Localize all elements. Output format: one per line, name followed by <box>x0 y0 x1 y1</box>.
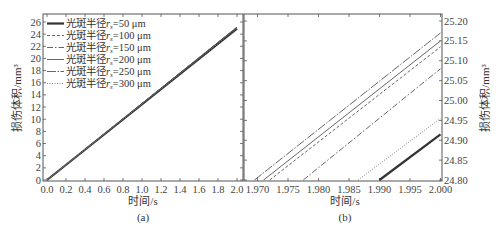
x-tick-label: 1.980 <box>307 184 331 195</box>
x-tick-label: 1.990 <box>368 184 392 195</box>
series-line <box>270 47 441 180</box>
y-tick-label: 22 <box>31 41 42 52</box>
x-tick-label: 2.000 <box>429 184 453 195</box>
x-tick-label: 1.0 <box>135 184 148 195</box>
y-tick-label: 10 <box>31 114 42 125</box>
x-tick-label: 1.8 <box>211 184 224 195</box>
panel-a: 02468101214161820222426 0.00.20.40.60.81… <box>10 14 244 224</box>
panel-b-x-ticks: 1.9701.9751.9801.9851.9901.9952.000 <box>246 14 453 195</box>
x-tick-label: 0.6 <box>97 184 110 195</box>
x-tick-label: 0.4 <box>78 184 92 195</box>
y-tick-label: 8 <box>36 126 41 137</box>
y-tick-label: 20 <box>31 53 42 64</box>
caption-a: (a) <box>137 211 150 224</box>
x-tick-label: 1.970 <box>246 184 270 195</box>
panel-b: 24.8024.8524.9024.9525.0025.0525.1025.15… <box>244 14 491 224</box>
x-tick-label: 0.0 <box>40 184 53 195</box>
legend: 光斑半径rs=50 μm光斑半径rs=100 μm光斑半径rs=150 μm光斑… <box>47 17 151 91</box>
y-tick-label: 18 <box>31 65 42 76</box>
x-tick-label: 1.6 <box>192 184 205 195</box>
legend-item-label: 光斑半径rs=300 μm <box>66 77 151 91</box>
series-line <box>358 118 440 180</box>
legend-item-label: 光斑半径rs=150 μm <box>66 41 151 55</box>
legend-item-label: 光斑半径rs=100 μm <box>66 29 151 43</box>
y-tick-label: 25.05 <box>444 75 468 86</box>
x-tick-label: 1.4 <box>173 184 187 195</box>
series-line <box>303 69 440 180</box>
y-tick-label: 24.95 <box>444 115 468 126</box>
y-tick-label: 25.20 <box>444 16 468 27</box>
y-tick-label: 16 <box>31 77 42 88</box>
panel-a-y-axis-label: 损伤体积/mm³ <box>10 64 23 132</box>
series-line <box>254 33 440 180</box>
legend-item-label: 光斑半径rs=200 μm <box>66 53 151 67</box>
series-line <box>264 41 441 180</box>
legend-item-label: 光斑半径rs=50 μm <box>66 17 146 31</box>
y-tick-label: 14 <box>31 89 42 100</box>
x-tick-label: 1.2 <box>154 184 167 195</box>
y-tick-label: 24.85 <box>444 155 468 166</box>
panel-b-lines <box>254 33 440 180</box>
y-tick-label: 24 <box>31 29 42 40</box>
x-tick-label: 1.975 <box>276 184 300 195</box>
y-tick-label: 26 <box>31 17 42 28</box>
caption-b: (b) <box>339 211 352 224</box>
x-tick-label: 0.2 <box>59 184 72 195</box>
y-tick-label: 25.00 <box>444 95 468 106</box>
y-tick-label: 25.15 <box>444 35 468 46</box>
legend-item-label: 光斑半径rs=250 μm <box>66 65 151 79</box>
y-tick-label: 4 <box>36 150 42 161</box>
x-tick-label: 2.0 <box>230 184 243 195</box>
figure: 02468101214161820222426 0.00.20.40.60.81… <box>0 0 498 234</box>
y-tick-label: 24.90 <box>444 135 468 146</box>
panel-b-y-ticks: 24.8024.8524.9024.9525.0025.0525.1025.15… <box>244 16 468 186</box>
panel-a-x-axis-label: 时间/s <box>128 195 157 207</box>
x-tick-label: 1.985 <box>337 184 361 195</box>
panel-b-y-axis-label: 损伤体积/mm³ <box>478 64 491 132</box>
x-tick-label: 1.995 <box>398 184 422 195</box>
y-tick-label: 2 <box>36 162 41 173</box>
y-tick-label: 25.10 <box>444 55 468 66</box>
x-tick-label: 0.8 <box>116 184 129 195</box>
y-tick-label: 12 <box>31 102 42 113</box>
panel-b-x-axis-label: 时间/s <box>330 195 359 207</box>
y-tick-label: 6 <box>36 138 41 149</box>
